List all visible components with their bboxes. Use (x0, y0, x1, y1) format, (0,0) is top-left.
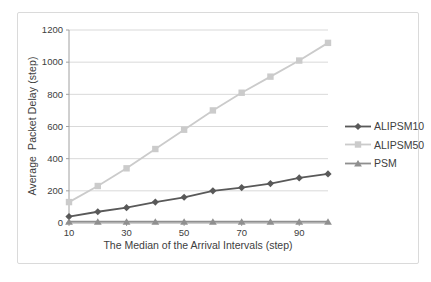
y-tick-label: 1200 (42, 24, 63, 35)
y-tick-label: 0 (58, 217, 63, 228)
legend-item-alipsm50: ALIPSM50 (345, 136, 424, 155)
series-alipsm50 (66, 40, 331, 206)
series-psm (65, 218, 332, 225)
y-tick-label: 600 (47, 121, 63, 132)
legend-label: ALIPSM50 (374, 139, 424, 151)
legend-item-alipsm10: ALIPSM10 (345, 117, 424, 136)
x-tick-label: 90 (294, 227, 305, 238)
y-axis-title: Average Packet Delay (step) (26, 56, 38, 195)
x-tick-label: 50 (179, 227, 190, 238)
y-tick-label: 800 (47, 89, 63, 100)
y-tick-label: 1000 (42, 56, 63, 67)
legend-label: PSM (374, 157, 397, 169)
y-axis-ticks: 020040060080010001200 (42, 24, 69, 228)
x-tick-label: 30 (121, 227, 132, 238)
legend-item-psm: PSM (345, 154, 424, 173)
x-tick-label: 70 (236, 227, 247, 238)
series-alipsm10 (65, 170, 331, 220)
y-tick-label: 400 (47, 153, 63, 164)
legend: ALIPSM10 ALIPSM50 PSM (345, 117, 424, 173)
x-tick-label: 10 (64, 227, 75, 238)
x-axis-title: The Median of the Arrival Intervals (ste… (103, 239, 292, 251)
legend-marker-triangle-icon (345, 158, 371, 169)
y-tick-label: 200 (47, 185, 63, 196)
gridlines (69, 30, 328, 191)
legend-marker-diamond-icon (345, 121, 371, 132)
legend-marker-square-icon (345, 139, 371, 150)
chart-figure: 0200400600800100012001030507090 Average … (17, 12, 419, 264)
x-axis-ticks: 1030507090 (64, 223, 305, 238)
legend-label: ALIPSM10 (374, 120, 424, 132)
